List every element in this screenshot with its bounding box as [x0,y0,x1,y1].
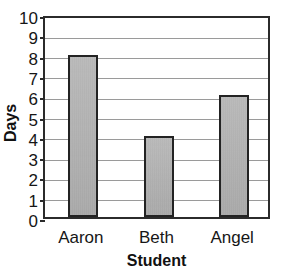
y-axis-tick [40,139,45,141]
bar-angel[interactable] [219,95,249,217]
y-axis-tick [40,119,45,121]
x-axis-title: Student [43,252,270,270]
y-tick-label: 2 [29,172,38,189]
y-tick-label: 8 [29,50,38,67]
x-tick-label-beth: Beth [139,228,174,248]
gridline [45,38,268,39]
y-axis-tick [40,220,45,222]
y-axis-tick [40,98,45,100]
y-tick-label: 1 [29,192,38,209]
y-tick-label: 9 [29,30,38,47]
y-axis-title: Days [2,112,20,142]
y-tick-label: 10 [19,10,38,27]
chart-title: Returned Class Books [0,0,283,5]
y-tick-label: 0 [29,213,38,230]
bar-chart-figure: Returned Class Books Days 012345678910 A… [0,0,283,276]
y-axis-tick [40,58,45,60]
bar-aaron[interactable] [68,55,98,217]
y-axis-tick [40,37,45,39]
y-tick-label: 7 [29,70,38,87]
y-axis-tick [40,200,45,202]
plot-area: 012345678910 [43,16,270,219]
y-axis-tick [40,159,45,161]
y-tick-label: 5 [29,111,38,128]
x-tick-label-aaron: Aaron [58,228,103,248]
bar-beth[interactable] [144,136,174,217]
y-axis-tick [40,179,45,181]
y-tick-label: 6 [29,91,38,108]
y-axis-tick [40,78,45,80]
y-tick-label: 3 [29,152,38,169]
y-tick-label: 4 [29,131,38,148]
x-tick-label-angel: Angel [210,228,253,248]
y-axis-tick [40,17,45,19]
